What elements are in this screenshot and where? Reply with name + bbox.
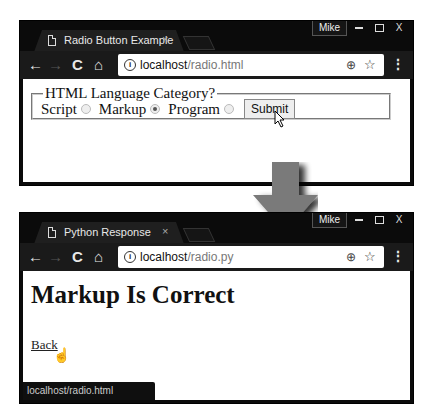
radio-label-markup: Markup bbox=[99, 101, 147, 118]
page-content: HTML Language Category? Script Markup Pr… bbox=[23, 79, 410, 182]
close-window-button[interactable]: X bbox=[389, 21, 409, 35]
submit-button[interactable]: Submit bbox=[244, 99, 295, 119]
minimize-icon bbox=[355, 27, 363, 29]
back-arrow-icon[interactable]: ← bbox=[28, 56, 43, 74]
menu-kebab-icon[interactable]: ⋮ bbox=[391, 248, 405, 264]
radio-label-program: Program bbox=[168, 101, 220, 118]
url-path: /radio.py bbox=[187, 250, 233, 264]
browser-window-form: Radio Button Example × Mike X ← → C ⌂ i … bbox=[19, 20, 414, 186]
tab-python-response[interactable]: Python Response × bbox=[34, 222, 184, 244]
maximize-icon bbox=[375, 24, 384, 32]
tab-close-icon[interactable]: × bbox=[162, 33, 168, 45]
hand-pointer-icon: ☝ bbox=[53, 347, 70, 364]
maximize-icon bbox=[375, 216, 384, 224]
home-icon[interactable]: ⌂ bbox=[94, 56, 103, 74]
tab-title: Radio Button Example bbox=[64, 34, 173, 46]
url-text: localhost/radio.py bbox=[140, 246, 233, 268]
browser-toolbar: ← → C ⌂ i localhost/radio.html ⊕ ☆ ⋮ bbox=[20, 51, 413, 79]
forward-arrow-icon[interactable]: → bbox=[48, 248, 63, 266]
info-icon[interactable]: i bbox=[124, 251, 136, 263]
maximize-button[interactable] bbox=[369, 21, 389, 35]
radio-script[interactable] bbox=[81, 104, 91, 114]
document-icon bbox=[48, 35, 56, 46]
browser-toolbar: ← → C ⌂ i localhost/radio.py ⊕ ☆ ⋮ bbox=[20, 243, 413, 271]
menu-kebab-icon[interactable]: ⋮ bbox=[391, 56, 405, 72]
tab-close-icon[interactable]: × bbox=[162, 225, 168, 237]
reload-icon[interactable]: C bbox=[72, 56, 83, 74]
home-icon[interactable]: ⌂ bbox=[94, 248, 103, 266]
document-icon bbox=[48, 227, 56, 238]
title-bar: Radio Button Example × Mike X bbox=[20, 21, 413, 51]
info-icon[interactable]: i bbox=[124, 59, 136, 71]
forward-arrow-icon[interactable]: → bbox=[48, 56, 63, 74]
radio-markup[interactable] bbox=[150, 104, 160, 114]
address-bar[interactable]: i localhost/radio.py ⊕ ☆ bbox=[118, 246, 384, 268]
tab-radio-button-example[interactable]: Radio Button Example × bbox=[34, 30, 184, 52]
minimize-icon bbox=[355, 219, 363, 221]
new-tab-button[interactable] bbox=[183, 36, 216, 50]
page-content: Markup Is Correct Back ☝ localhost/radio… bbox=[23, 271, 410, 400]
radio-group: Script Markup Program Submit bbox=[41, 99, 295, 119]
url-host: localhost bbox=[140, 250, 187, 264]
minimize-button[interactable] bbox=[349, 213, 369, 227]
bookmark-star-icon[interactable]: ☆ bbox=[364, 54, 376, 76]
status-bar-url: localhost/radio.html bbox=[23, 382, 155, 400]
reload-icon[interactable]: C bbox=[72, 248, 83, 266]
radio-program[interactable] bbox=[224, 104, 234, 114]
zoom-icon[interactable]: ⊕ bbox=[346, 54, 356, 76]
result-heading: Markup Is Correct bbox=[31, 281, 235, 309]
address-bar[interactable]: i localhost/radio.html ⊕ ☆ bbox=[118, 54, 384, 76]
maximize-button[interactable] bbox=[369, 213, 389, 227]
zoom-icon[interactable]: ⊕ bbox=[346, 246, 356, 268]
url-text: localhost/radio.html bbox=[140, 54, 243, 76]
bookmark-star-icon[interactable]: ☆ bbox=[364, 246, 376, 268]
browser-window-response: Python Response × Mike X ← → C ⌂ i local… bbox=[19, 212, 414, 404]
url-host: localhost bbox=[140, 58, 187, 72]
tab-title: Python Response bbox=[64, 226, 151, 238]
mouse-pointer-icon bbox=[274, 110, 286, 128]
title-bar: Python Response × Mike X bbox=[20, 213, 413, 243]
profile-chip[interactable]: Mike bbox=[312, 21, 347, 36]
back-arrow-icon[interactable]: ← bbox=[28, 248, 43, 266]
close-window-button[interactable]: X bbox=[389, 213, 409, 227]
minimize-button[interactable] bbox=[349, 21, 369, 35]
url-path: /radio.html bbox=[187, 58, 243, 72]
radio-label-script: Script bbox=[41, 101, 77, 118]
profile-chip[interactable]: Mike bbox=[312, 213, 347, 228]
new-tab-button[interactable] bbox=[183, 228, 216, 242]
